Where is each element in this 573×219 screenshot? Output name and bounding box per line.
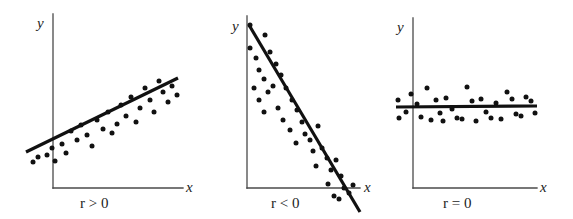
scatter-points [396,85,538,124]
regression-line [396,106,537,107]
panel-caption: r > 0 [80,195,108,211]
x-axis-label: x [539,179,547,195]
panel-negative-svg: y x [200,0,385,219]
y-axis-label: y [230,18,239,34]
y-axis-label: y [395,19,404,35]
regression-line [249,25,360,212]
x-axis-label: x [363,179,371,195]
correlation-scatterplot-figure: y x [0,0,573,219]
x-axis-label: x [185,179,193,195]
panel-positive-correlation: y x [0,0,200,219]
y-axis-label: y [35,15,44,31]
panel-positive-svg: y x [0,0,200,219]
panel-caption: r < 0 [271,195,299,211]
regression-line [26,78,178,152]
panel-caption: r = 0 [443,195,471,211]
panel-zero-svg: y x [385,0,573,219]
panel-negative-correlation: y x [200,0,385,219]
panel-zero-correlation: y x [385,0,573,219]
